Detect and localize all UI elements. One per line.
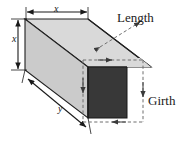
depth-extension-upper [22,70,25,83]
length-label: Length [117,11,154,24]
box-solid [25,19,151,118]
box-front-face [88,67,127,118]
box-top-sliver [127,58,151,67]
girth-label: Girth [148,94,175,107]
depth-label: y [58,104,62,114]
height-label: x [12,34,16,44]
width-label: x [54,4,58,14]
figure-canvas [0,0,182,153]
box-dimensions-figure: Length Girth x x y [0,0,182,153]
depth-extension-lower [88,118,91,134]
